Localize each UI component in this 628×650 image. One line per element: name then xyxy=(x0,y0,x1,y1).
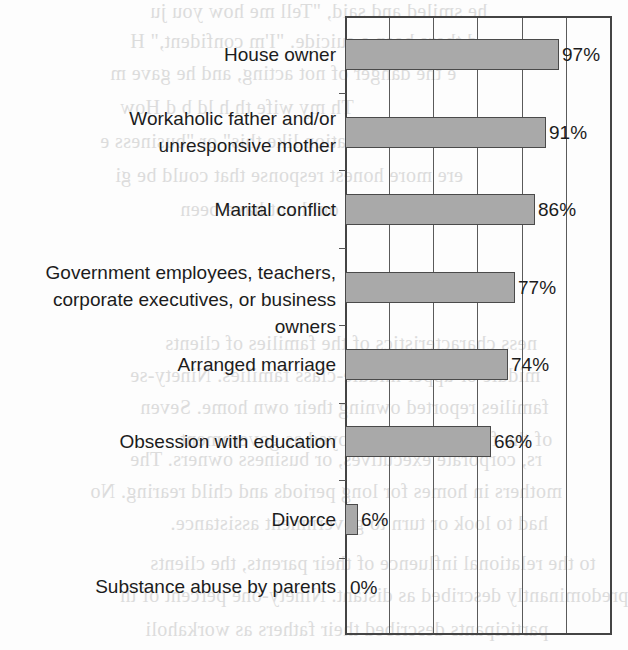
axis-tick xyxy=(339,403,346,404)
bar-government-employees xyxy=(345,272,515,303)
scanned-page: he smiled and said, "Tell me how you ju … xyxy=(0,0,628,650)
category-label: Substance abuse by parents xyxy=(20,573,336,600)
plot-frame xyxy=(345,16,612,635)
category-label-line: Substance abuse by parents xyxy=(20,573,336,600)
gridline-100 xyxy=(566,18,567,633)
category-label-line: Divorce xyxy=(20,506,336,533)
category-label: Workaholic father and/or unresponsive mo… xyxy=(20,105,336,159)
bar-arranged-marriage xyxy=(345,349,508,380)
axis-tick xyxy=(339,558,346,559)
category-label: Obsession with education xyxy=(20,428,336,455)
bar-value-label: 66% xyxy=(494,432,532,451)
bar-marital-conflict xyxy=(345,194,535,225)
bar-value-label: 97% xyxy=(562,45,600,64)
gridline-20 xyxy=(389,18,390,633)
bar-value-label: 91% xyxy=(549,123,587,142)
category-label: Government employees, teachers, corporat… xyxy=(0,259,336,340)
category-label-line: unresponsive mother xyxy=(20,132,336,159)
gridline-80 xyxy=(522,18,523,633)
gridline-60 xyxy=(477,18,478,633)
category-label: Arranged marriage xyxy=(20,351,336,378)
axis-tick xyxy=(339,325,346,326)
category-label-line: Government employees, teachers, xyxy=(0,259,336,286)
category-label: Marital conflict xyxy=(20,196,336,223)
bar-value-label: 6% xyxy=(361,510,388,529)
bar-house-owner xyxy=(345,39,559,70)
category-label: Divorce xyxy=(20,506,336,533)
category-label: House owner xyxy=(20,41,336,68)
bar-value-label: 86% xyxy=(538,200,576,219)
category-label-line: owners xyxy=(0,313,336,340)
category-label-line: Obsession with education xyxy=(20,428,336,455)
gridline-40 xyxy=(433,18,434,633)
category-label-line: Workaholic father and/or xyxy=(20,105,336,132)
bar-obsession-education xyxy=(345,426,491,457)
axis-tick xyxy=(339,480,346,481)
bar-value-label: 0% xyxy=(350,578,377,597)
axis-tick xyxy=(339,93,346,94)
category-label-line: corporate executives, or business xyxy=(0,286,336,313)
bar-divorce xyxy=(345,504,358,535)
category-label-line: Marital conflict xyxy=(20,196,336,223)
category-label-line: Arranged marriage xyxy=(20,351,336,378)
bar-chart: House owner 97% Workaholic father and/or… xyxy=(0,0,628,650)
axis-tick xyxy=(339,248,346,249)
category-label-line: House owner xyxy=(20,41,336,68)
bar-value-label: 74% xyxy=(511,355,549,374)
bar-value-label: 77% xyxy=(518,278,556,297)
bar-workaholic-father xyxy=(345,117,546,148)
axis-tick xyxy=(339,170,346,171)
